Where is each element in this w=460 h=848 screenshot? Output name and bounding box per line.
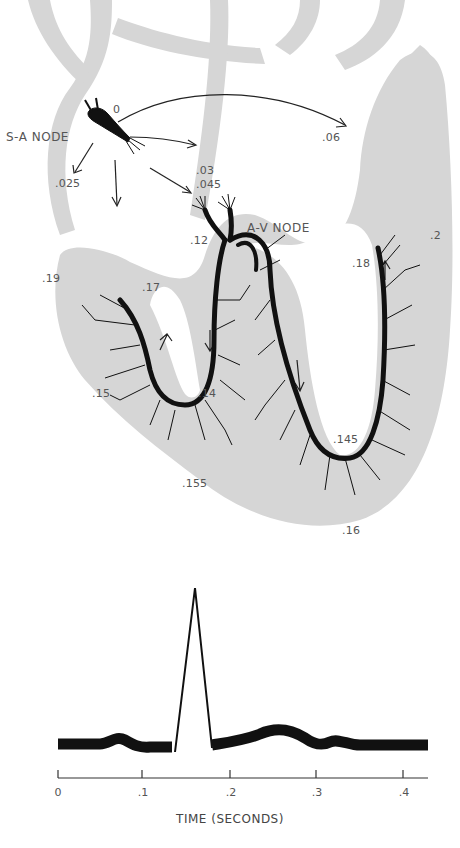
time-label-17: .17 xyxy=(142,281,160,294)
time-label-045: .045 xyxy=(196,178,221,191)
axis-tick-2: .2 xyxy=(226,786,237,799)
time-label-155: .155 xyxy=(182,477,207,490)
heart-diagram xyxy=(0,0,460,848)
time-label-12: .12 xyxy=(190,234,208,247)
axis-tick-3: .3 xyxy=(312,786,323,799)
time-label-0: 0 xyxy=(113,103,120,116)
x-axis-title: TIME (SECONDS) xyxy=(0,812,460,826)
time-label-2: .2 xyxy=(430,229,441,242)
time-label-14: .14 xyxy=(198,387,216,400)
av-node-label: A-V NODE xyxy=(247,221,310,235)
time-label-06: .06 xyxy=(322,131,340,144)
ecg-trace xyxy=(58,588,428,752)
time-label-145: .145 xyxy=(333,433,358,446)
time-label-025: .025 xyxy=(55,177,80,190)
axis-tick-1: .1 xyxy=(138,786,149,799)
time-label-03: .03 xyxy=(196,164,214,177)
axis-tick-0: 0 xyxy=(55,786,62,799)
time-label-15: .15 xyxy=(92,387,110,400)
time-label-18: .18 xyxy=(352,257,370,270)
axis-tick-4: .4 xyxy=(399,786,410,799)
time-axis xyxy=(58,770,428,778)
sa-node-label: S-A NODE xyxy=(6,130,69,144)
time-label-16: .16 xyxy=(342,524,360,537)
time-label-19: .19 xyxy=(42,272,60,285)
